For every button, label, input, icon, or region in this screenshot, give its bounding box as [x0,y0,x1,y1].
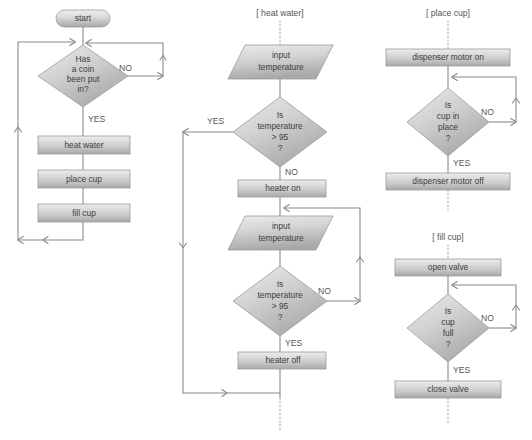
label-cupfull-yes: YES [453,365,470,375]
node-coin-check[interactable]: Has a coin been put in? [38,45,128,107]
label-coin-no: NO [119,63,132,73]
temp-check-1-line-4: ? [278,143,283,153]
place-cup-label: place cup [66,174,102,184]
node-cup-full[interactable]: Is cup full ? [407,294,489,362]
node-input-temp-1[interactable]: input temperature [228,45,333,79]
cup-full-line-1: Is [445,306,452,316]
node-dispenser-on[interactable]: dispenser motor on [386,49,510,66]
heat-water-label: heat water [64,140,103,150]
fill-cup-label: fill cup [72,208,96,218]
node-dispenser-off[interactable]: dispenser motor off [386,173,510,190]
label-check1-yes: YES [207,116,224,126]
dispenser-off-label: dispenser motor off [412,176,484,186]
temp-check-1-line-1: Is [277,110,284,120]
header-heat-water: [ heat water] [256,8,303,18]
edge-mainloop-bottom [18,222,83,240]
node-close-valve[interactable]: close valve [395,381,501,398]
temp-check-1-line-3: > 95 [272,132,289,142]
node-fill-cup[interactable]: fill cup [38,204,130,222]
node-heat-water[interactable]: heat water [38,136,130,154]
coin-check-line-1: Has [76,54,91,64]
label-cupfull-no: NO [481,313,494,323]
input-temp-2-line-2: temperature [258,233,303,243]
close-valve-label: close valve [427,384,469,394]
input-temp-1-line-2: temperature [258,62,303,72]
input-temp-2-line-1: input [272,221,291,231]
label-check2-yes: YES [285,338,302,348]
node-cup-in-place[interactable]: Is cup in place ? [407,88,489,156]
node-place-cup[interactable]: place cup [38,170,130,188]
node-temp-check-1[interactable]: Is temperature > 95 ? [233,97,327,167]
input-temp-1-line-1: input [272,50,291,60]
label-check2-no: NO [318,286,331,296]
node-start[interactable]: start [56,10,110,27]
node-open-valve[interactable]: open valve [395,259,501,276]
heater-on-label: heater on [265,183,301,193]
header-fill-cup: [ fill cup] [432,232,464,242]
label-coin-yes: YES [88,114,105,124]
temp-check-2-line-1: Is [277,279,284,289]
temp-check-2-line-2: temperature [257,290,302,300]
label-cupinplace-no: NO [481,107,494,117]
flowchart-canvas: start Has a coin been put in? NO YES hea… [0,0,532,440]
cup-in-place-line-2: cup in [437,111,460,121]
flowchart-svg: start Has a coin been put in? NO YES hea… [0,0,532,440]
cup-in-place-line-4: ? [446,133,451,143]
node-temp-check-2[interactable]: Is temperature > 95 ? [233,266,327,336]
coin-check-line-2: a coin [72,64,95,74]
label-cupinplace-yes: YES [453,158,470,168]
cup-full-line-3: full [443,328,454,338]
header-place-cup: [ place cup] [426,8,470,18]
temp-check-1-line-2: temperature [257,121,302,131]
heater-off-label: heater off [265,355,301,365]
coin-check-line-4: in? [77,84,89,94]
node-heater-on[interactable]: heater on [238,180,326,197]
open-valve-label: open valve [428,262,469,272]
node-heater-off[interactable]: heater off [238,352,326,369]
label-check1-no: NO [285,167,298,177]
coin-check-line-3: been put [67,74,100,84]
cup-in-place-line-3: place [438,122,458,132]
cup-in-place-line-1: Is [445,100,452,110]
cup-full-line-2: cup [441,317,455,327]
start-label: start [75,13,92,23]
temp-check-2-line-3: > 95 [272,301,289,311]
node-input-temp-2[interactable]: input temperature [228,216,333,250]
cup-full-line-4: ? [446,339,451,349]
temp-check-2-line-4: ? [278,312,283,322]
dispenser-on-label: dispenser motor on [412,52,484,62]
